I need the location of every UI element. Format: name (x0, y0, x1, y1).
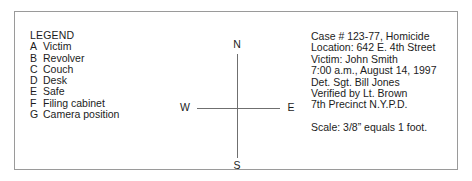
legend-item-key: G (30, 109, 43, 120)
legend-item-key: A (30, 41, 43, 52)
case-scale-line: Scale: 3/8” equals 1 foot. (311, 122, 461, 133)
compass-axis-horizontal (197, 108, 280, 109)
legend-item-a: A Victim (30, 41, 180, 52)
compass-rose-icon: N S W E (175, 34, 300, 176)
legend-item-g: G Camera position (30, 109, 180, 120)
case-info-block: Case # 123-77, Homicide Location: 642 E.… (311, 31, 461, 134)
compass-label-east: E (284, 102, 298, 113)
compass-label-west: W (178, 102, 192, 113)
compass-axis-vertical (237, 54, 238, 158)
compass-label-south: S (229, 160, 245, 171)
legend-item-label: Camera position (43, 109, 180, 120)
sketch-sheet-frame: LEGEND A Victim B Revolver C Couch D Des… (14, 11, 458, 170)
legend-item-label: Victim (43, 41, 180, 52)
case-datetime-line: 7:00 a.m., August 14, 1997 (311, 65, 461, 76)
case-precinct-line: 7th Precinct N.Y.P.D. (311, 99, 461, 110)
compass-label-north: N (229, 39, 245, 50)
legend-block: LEGEND A Victim B Revolver C Couch D Des… (30, 30, 180, 120)
